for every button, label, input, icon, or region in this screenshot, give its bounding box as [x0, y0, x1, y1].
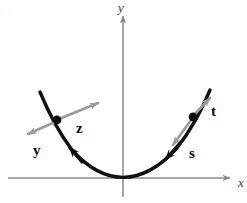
curve-direction-arrow-left [70, 148, 82, 162]
figure-container: ) y x y z s t [0, 0, 247, 203]
right-point-marker [189, 113, 198, 122]
y-axis-label: y [118, 1, 124, 14]
vector-label-z: z [76, 121, 83, 136]
vector-label-s: s [189, 146, 195, 161]
figure-canvas [0, 0, 247, 203]
parabola-curve-group [40, 90, 210, 177]
left-point-marker [53, 116, 62, 125]
right-vector-group [173, 98, 210, 145]
vector-z-arrow [59, 103, 98, 119]
vector-t-arrow [194, 98, 210, 115]
axis-group [8, 16, 230, 197]
vector-label-y: y [33, 143, 41, 158]
vector-y-arrow [28, 122, 55, 134]
vector-label-t: t [211, 104, 216, 119]
x-axis-label: x [238, 176, 244, 189]
left-vector-group [28, 103, 98, 134]
parabola-curve [40, 90, 210, 177]
